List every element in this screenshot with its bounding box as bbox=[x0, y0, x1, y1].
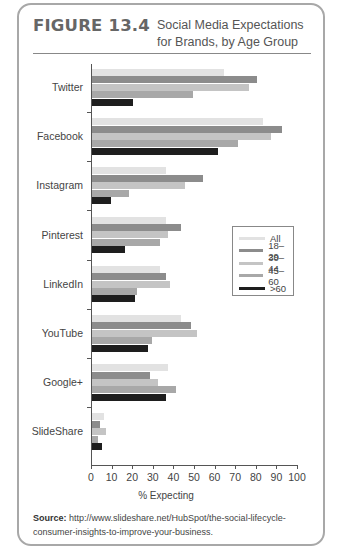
bar bbox=[92, 443, 102, 450]
bar bbox=[92, 421, 100, 428]
bar bbox=[92, 99, 133, 106]
bar bbox=[92, 379, 158, 386]
bar bbox=[92, 386, 176, 393]
bar bbox=[92, 413, 104, 420]
legend-swatch bbox=[239, 274, 263, 277]
figure-title: Social Media Expectations for Brands, by… bbox=[157, 17, 304, 51]
bar bbox=[92, 330, 197, 337]
y-tick bbox=[87, 112, 91, 113]
legend-item: 45–60 bbox=[239, 270, 293, 282]
x-tick bbox=[256, 465, 257, 469]
bar bbox=[92, 69, 224, 76]
bar bbox=[92, 197, 111, 204]
y-tick bbox=[87, 161, 91, 162]
category-label: Facebook bbox=[37, 130, 83, 142]
y-tick bbox=[87, 309, 91, 310]
bar bbox=[92, 84, 249, 91]
x-tick-label: 10 bbox=[106, 471, 118, 483]
legend-swatch bbox=[239, 287, 265, 290]
bar bbox=[92, 167, 166, 174]
bar bbox=[92, 126, 282, 133]
legend: All18–2930–4445–60>60 bbox=[232, 226, 294, 296]
category-label: Pinterest bbox=[42, 229, 83, 241]
bar bbox=[92, 266, 160, 273]
bar bbox=[92, 337, 152, 344]
bar bbox=[92, 322, 191, 329]
category-label: Twitter bbox=[52, 81, 83, 93]
source-note: Source: http://www.slideshare.net/HubSpo… bbox=[33, 511, 318, 539]
legend-swatch bbox=[239, 237, 265, 240]
y-tick bbox=[87, 407, 91, 408]
x-tick-label: 70 bbox=[229, 471, 241, 483]
bar bbox=[92, 148, 218, 155]
bar bbox=[92, 76, 257, 83]
x-tick-label: 90 bbox=[271, 471, 283, 483]
category-label: SlideShare bbox=[32, 425, 83, 437]
bar bbox=[92, 231, 168, 238]
legend-swatch bbox=[239, 249, 263, 252]
y-tick bbox=[87, 358, 91, 359]
figure-title-line2: for Brands, by Age Group bbox=[157, 34, 304, 51]
bar bbox=[92, 315, 181, 322]
figure-title-line1: Social Media Expectations bbox=[157, 17, 304, 34]
x-tick-label: 30 bbox=[147, 471, 159, 483]
category-label: Google+ bbox=[43, 376, 83, 388]
x-tick bbox=[235, 465, 236, 469]
bar bbox=[92, 182, 185, 189]
legend-item: >60 bbox=[239, 282, 286, 294]
bar bbox=[92, 133, 271, 140]
x-tick bbox=[153, 465, 154, 469]
y-tick bbox=[87, 210, 91, 211]
legend-swatch bbox=[239, 262, 263, 265]
x-tick-label: 80 bbox=[250, 471, 262, 483]
y-tick bbox=[87, 260, 91, 261]
bar bbox=[92, 91, 193, 98]
bar bbox=[92, 281, 170, 288]
x-tick-label: 100 bbox=[288, 471, 306, 483]
legend-label: >60 bbox=[270, 283, 286, 294]
bar bbox=[92, 364, 168, 371]
bar bbox=[92, 273, 166, 280]
bar bbox=[92, 224, 181, 231]
bar bbox=[92, 372, 150, 379]
x-tick bbox=[215, 465, 216, 469]
x-tick bbox=[91, 465, 92, 469]
x-tick-label: 20 bbox=[126, 471, 138, 483]
x-tick bbox=[297, 465, 298, 469]
bar bbox=[92, 246, 125, 253]
x-tick bbox=[276, 465, 277, 469]
x-axis-title: % Expecting bbox=[138, 490, 194, 501]
x-tick bbox=[132, 465, 133, 469]
figure-number: FIGURE 13.4 bbox=[33, 16, 150, 35]
category-label: Instagram bbox=[36, 179, 83, 191]
source-label: Source: bbox=[33, 513, 67, 523]
source-text: http://www.slideshare.net/HubSpot/the-so… bbox=[33, 513, 286, 537]
x-tick bbox=[194, 465, 195, 469]
x-tick-label: 0 bbox=[88, 471, 94, 483]
bar bbox=[92, 190, 129, 197]
title-divider bbox=[33, 53, 311, 54]
x-tick bbox=[173, 465, 174, 469]
bar bbox=[92, 140, 238, 147]
category-label: YouTube bbox=[42, 327, 83, 339]
x-tick-label: 40 bbox=[168, 471, 180, 483]
category-label: LinkedIn bbox=[43, 278, 83, 290]
bar bbox=[92, 394, 166, 401]
bar bbox=[92, 345, 148, 352]
bar bbox=[92, 295, 135, 302]
x-tick-label: 60 bbox=[209, 471, 221, 483]
bar bbox=[92, 217, 166, 224]
bar bbox=[92, 175, 203, 182]
bar bbox=[92, 239, 160, 246]
bar bbox=[92, 436, 98, 443]
bar bbox=[92, 428, 106, 435]
x-tick bbox=[112, 465, 113, 469]
bar bbox=[92, 288, 137, 295]
bar bbox=[92, 118, 263, 125]
x-tick-label: 50 bbox=[188, 471, 200, 483]
